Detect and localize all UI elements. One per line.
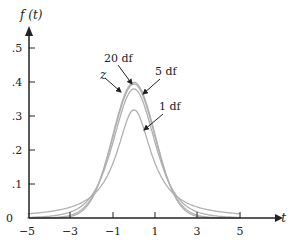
x-tick-labels: −5 −3 −1 1 3 5 bbox=[19, 225, 244, 238]
y-ticks bbox=[29, 48, 35, 184]
annot-1df: 1 df bbox=[159, 100, 182, 113]
svg-text:.1: .1 bbox=[12, 178, 23, 191]
svg-text:−3: −3 bbox=[62, 225, 78, 238]
svg-text:0: 0 bbox=[6, 212, 13, 225]
curve-z bbox=[28, 82, 241, 218]
svg-text:.2: .2 bbox=[12, 144, 23, 157]
svg-text:.5: .5 bbox=[12, 42, 23, 55]
x-axis-title: t bbox=[281, 211, 286, 225]
svg-text:3: 3 bbox=[194, 225, 201, 238]
annot-20df: 20 df bbox=[104, 52, 134, 65]
svg-text:−1: −1 bbox=[105, 225, 121, 238]
curve-20-df bbox=[28, 84, 241, 218]
curve-1-df bbox=[28, 110, 241, 214]
svg-text:5: 5 bbox=[237, 225, 244, 238]
svg-text:.3: .3 bbox=[12, 110, 23, 123]
y-axis-title: f (t) bbox=[19, 8, 43, 22]
y-tick-labels: 0 .1 .2 .3 .4 .5 bbox=[6, 42, 22, 225]
annot-5df: 5 df bbox=[155, 65, 178, 78]
annot-z: z bbox=[99, 68, 107, 82]
svg-text:.4: .4 bbox=[12, 76, 23, 89]
svg-text:−5: −5 bbox=[19, 225, 35, 238]
y-axis-arrow-icon bbox=[25, 26, 33, 36]
svg-text:1: 1 bbox=[152, 225, 159, 238]
curve-5-df bbox=[28, 89, 241, 218]
density-curves bbox=[28, 82, 241, 218]
t-distribution-chart: f (t) t 0 .1 .2 .3 .4 .5 −5 −3 −1 1 3 5 … bbox=[0, 0, 290, 249]
